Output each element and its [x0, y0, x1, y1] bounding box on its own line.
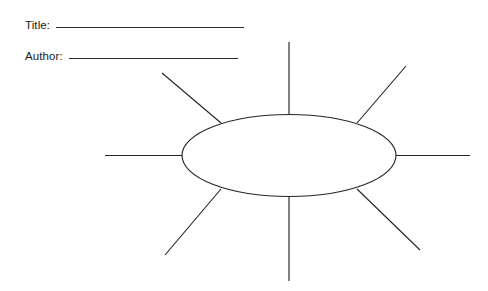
spoke-top-left[interactable]: [162, 73, 221, 123]
spoke-bottom-left[interactable]: [165, 189, 221, 255]
center-bubble[interactable]: [182, 115, 396, 197]
spoke-bottom-right[interactable]: [357, 189, 420, 250]
web-cluster-diagram: [0, 0, 488, 291]
worksheet-page: Title: Author:: [0, 0, 488, 291]
spoke-top-right[interactable]: [357, 66, 406, 123]
